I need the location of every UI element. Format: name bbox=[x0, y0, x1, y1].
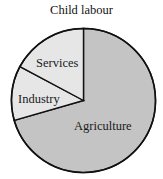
label-agriculture: Agriculture bbox=[74, 119, 132, 133]
label-industry: Industry bbox=[18, 92, 60, 106]
label-services: Services bbox=[36, 56, 78, 70]
pie-chart: Services Industry Agriculture bbox=[0, 0, 163, 179]
